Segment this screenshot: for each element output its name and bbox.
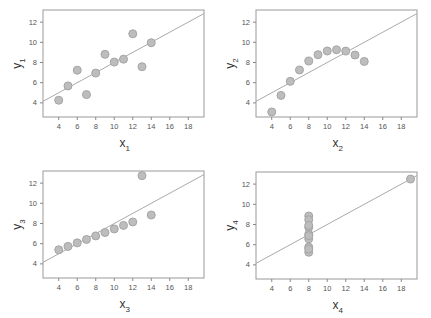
x-tick-label: 6 — [75, 122, 79, 131]
x-tick-label: 14 — [360, 284, 368, 293]
y-tick-label: 4 — [33, 259, 37, 268]
data-point — [110, 225, 118, 233]
data-point — [323, 47, 331, 55]
y-tick-label: 8 — [33, 58, 37, 67]
data-point — [64, 82, 72, 90]
x-tick-label: 18 — [184, 283, 192, 292]
y-tick-label: 10 — [242, 200, 250, 209]
data-point — [129, 30, 137, 38]
data-point — [101, 228, 109, 236]
x-tick-label: 18 — [184, 122, 192, 131]
x-tick-label: 8 — [94, 283, 98, 292]
y-tick-label: 4 — [246, 260, 250, 269]
x-tick-label: 18 — [397, 284, 405, 293]
x-axis-label: x4 — [333, 298, 344, 315]
scatter-panel-1: 46810121416184681012x1y1 — [10, 10, 204, 153]
x-tick-label: 16 — [166, 283, 174, 292]
x-tick-label: 12 — [129, 122, 137, 131]
data-point — [342, 47, 350, 55]
x-axis-label: x2 — [333, 136, 344, 153]
x-tick-label: 8 — [94, 122, 98, 131]
scatter-panel-2: 46810121416184681012x2y2 — [223, 10, 417, 153]
regression-line — [256, 176, 417, 264]
y-tick-label: 10 — [29, 38, 37, 47]
data-point — [73, 239, 81, 247]
x-tick-label: 18 — [397, 122, 405, 131]
x-axis-label: x3 — [120, 297, 131, 314]
anscombe-quartet-chart: 46810121416184681012x1y14681012141618468… — [0, 0, 431, 318]
y-axis-label: y4 — [223, 220, 240, 231]
y-tick-label: 8 — [246, 220, 250, 229]
x-tick-label: 16 — [379, 122, 387, 131]
x-tick-label: 6 — [75, 283, 79, 292]
x-tick-label: 4 — [57, 122, 61, 131]
x-tick-label: 4 — [57, 283, 61, 292]
y-tick-label: 10 — [29, 199, 37, 208]
data-point — [110, 58, 118, 66]
y-tick-label: 8 — [246, 58, 250, 67]
data-point — [92, 69, 100, 77]
plot-frame — [256, 172, 417, 279]
y-axis-label: y3 — [10, 219, 27, 230]
data-point — [286, 77, 294, 85]
x-tick-label: 12 — [342, 284, 350, 293]
x-tick-label: 10 — [110, 122, 118, 131]
x-tick-label: 16 — [166, 122, 174, 131]
data-point — [360, 57, 368, 65]
plot-frame — [256, 10, 417, 117]
y-axis-label: y1 — [10, 58, 27, 69]
x-tick-label: 4 — [270, 284, 274, 293]
x-tick-label: 8 — [307, 284, 311, 293]
data-point — [147, 211, 155, 219]
data-point — [351, 51, 359, 59]
data-point — [407, 175, 415, 183]
data-point — [92, 232, 100, 240]
data-point — [120, 221, 128, 229]
data-point — [147, 39, 155, 47]
y-tick-label: 12 — [242, 180, 250, 189]
x-tick-label: 12 — [129, 283, 137, 292]
x-tick-label: 6 — [288, 122, 292, 131]
data-point — [120, 55, 128, 63]
data-point — [305, 57, 313, 65]
y-tick-label: 12 — [29, 18, 37, 27]
x-tick-label: 14 — [147, 283, 155, 292]
data-point — [314, 51, 322, 59]
data-point — [73, 66, 81, 74]
x-tick-label: 10 — [110, 283, 118, 292]
data-point — [305, 245, 313, 253]
data-point — [101, 50, 109, 58]
x-tick-label: 4 — [270, 122, 274, 131]
data-point — [333, 46, 341, 54]
data-point — [138, 172, 146, 180]
data-point — [295, 66, 303, 74]
data-point — [268, 108, 276, 116]
regression-line — [256, 14, 417, 102]
x-tick-label: 12 — [342, 122, 350, 131]
data-point — [305, 232, 313, 240]
y-tick-label: 6 — [33, 78, 37, 87]
data-point — [82, 91, 90, 99]
y-tick-label: 6 — [246, 240, 250, 249]
x-tick-label: 6 — [288, 284, 292, 293]
scatter-panel-4: 46810121416184681012x4y4 — [223, 172, 417, 315]
y-tick-label: 12 — [29, 179, 37, 188]
y-tick-label: 10 — [242, 38, 250, 47]
y-tick-label: 6 — [33, 239, 37, 248]
data-point — [138, 63, 146, 71]
data-point — [129, 218, 137, 226]
scatter-panel-3: 46810121416184681012x3y3 — [10, 171, 204, 314]
data-point — [277, 91, 285, 99]
x-tick-label: 10 — [323, 284, 331, 293]
data-point — [64, 242, 72, 250]
data-point — [55, 246, 63, 254]
x-axis-label: x1 — [120, 136, 131, 153]
y-tick-label: 8 — [33, 219, 37, 228]
y-tick-label: 4 — [246, 98, 250, 107]
y-axis-label: y2 — [223, 58, 240, 69]
data-point — [55, 96, 63, 104]
x-tick-label: 10 — [323, 122, 331, 131]
data-point — [305, 221, 313, 229]
y-tick-label: 12 — [242, 18, 250, 27]
x-tick-label: 16 — [379, 284, 387, 293]
